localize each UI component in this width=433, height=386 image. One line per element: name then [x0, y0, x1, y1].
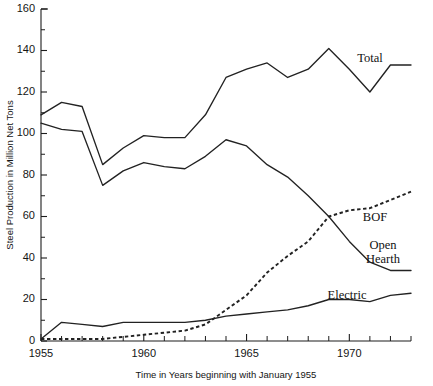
y-tick-label: 40 [23, 251, 35, 263]
x-tick-label: 1960 [132, 347, 156, 359]
y-tick-label: 0 [29, 334, 35, 346]
x-axis-tick-labels: 1955196019651970 [29, 347, 362, 359]
y-tick-label: 20 [23, 292, 35, 304]
series-label-bof: BOF [363, 210, 387, 224]
series-total [41, 48, 411, 164]
y-tick-label: 100 [17, 126, 35, 138]
series-label-open-hearth: OpenHearth [366, 238, 401, 266]
y-tick-label: 80 [23, 168, 35, 180]
series-label-electric: Electric [328, 288, 367, 302]
x-tick-label: 1970 [337, 347, 361, 359]
series-labels: TotalBOFOpenHearthElectric [328, 51, 401, 302]
x-axis-title: Time in Years beginning with January 195… [136, 369, 317, 380]
y-tick-label: 60 [23, 209, 35, 221]
y-tick-label: 160 [17, 2, 35, 14]
chart-container: 020406080100120140160 1955196019651970 T… [0, 0, 433, 386]
y-tick-label: 140 [17, 43, 35, 55]
steel-production-line-chart: 020406080100120140160 1955196019651970 T… [0, 0, 433, 386]
y-axis-tick-labels: 020406080100120140160 [17, 2, 35, 346]
x-tick-label: 1965 [234, 347, 258, 359]
series-label-total: Total [357, 51, 383, 65]
y-tick-label: 120 [17, 85, 35, 97]
y-axis-title: Steel Production in Million Net Tons [4, 100, 15, 250]
series-bof [41, 192, 411, 339]
x-tick-label: 1955 [29, 347, 53, 359]
